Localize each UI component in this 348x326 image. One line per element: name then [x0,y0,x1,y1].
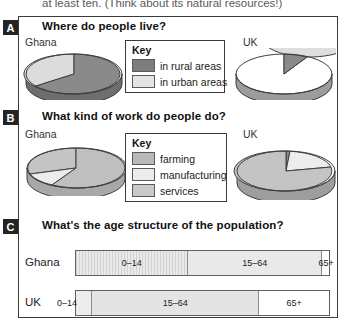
key-label-urban: in urban areas [160,76,227,88]
key-label-farming: farming [160,153,195,165]
top-sentence-text: at least ten. (Think about its natural r… [42,0,282,9]
stacked-bar-uk: 0–14 15–64 65+ [75,290,330,316]
section-badge-a: A [3,20,18,35]
section-title-b: What kind of work do people do? [42,110,226,122]
swatch-services-icon [132,184,155,197]
key-box-residence: Key in rural areas in urban areas [125,40,225,93]
pie-chart-ghana-work [22,140,130,196]
key-box-work: Key farming manufacturing services [125,133,227,202]
bar-segment-label: 15–64 [163,298,188,308]
bar-segment-label: 65+ [318,258,333,268]
swatch-rural-icon [132,59,155,72]
section-badge-c: C [3,219,18,234]
chart-label-ghana-b: Ghana [25,128,57,140]
key-row-farming: farming [132,152,220,165]
section-title-c: What's the age structure of the populati… [42,219,284,231]
bar-segment-uk-15-64: 15–64 [91,291,258,315]
pie-chart-ghana-residence [22,48,126,100]
swatch-farming-icon [132,152,155,165]
bar-segment-uk-0-14: 0–14 [76,291,91,315]
bar-label-ghana: Ghana [25,256,60,268]
bar-segment-ghana-65plus: 65+ [321,251,329,275]
section-badge-b: B [3,110,18,125]
key-row-rural: in rural areas [132,59,218,72]
bar-segment-ghana-0-14: 0–14 [76,251,187,275]
chart-label-uk-b: UK [243,128,258,140]
key-label-manufacturing: manufacturing [160,169,227,181]
bar-segment-ghana-15-64: 15–64 [187,251,321,275]
bar-segment-label: 0–14 [57,298,77,308]
section-title-a: Where do people live? [42,20,166,32]
bar-segment-label: 0–14 [122,258,142,268]
key-row-urban: in urban areas [132,75,218,88]
key-row-services: services [132,184,220,197]
pie-chart-uk-residence [232,48,336,100]
chart-label-uk-a: UK [243,36,258,48]
swatch-manufacturing-icon [132,168,155,181]
bar-segment-label: 65+ [286,298,301,308]
bar-segment-uk-65plus: 65+ [258,291,329,315]
swatch-urban-icon [132,75,155,88]
cropped-top-sentence: at least ten. (Think about its natural r… [0,0,348,14]
chart-label-ghana-a: Ghana [25,36,57,48]
key-label-services: services [160,185,199,197]
pie-chart-uk-work [232,142,340,200]
key-label-rural: in rural areas [160,60,221,72]
stacked-bar-ghana: 0–14 15–64 65+ [75,250,330,276]
bar-label-uk: UK [25,296,41,308]
key-title-b: Key [132,137,220,149]
key-title-a: Key [132,44,218,56]
key-row-manufacturing: manufacturing [132,168,220,181]
bar-segment-label: 15–64 [242,258,267,268]
